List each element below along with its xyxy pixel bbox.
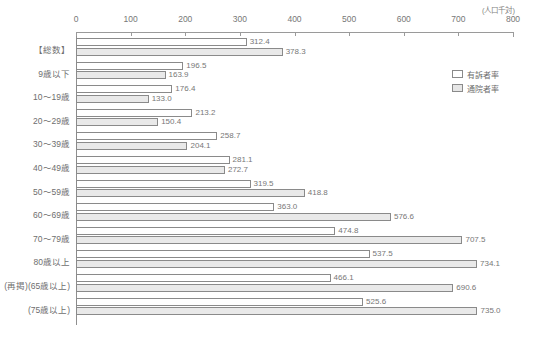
chart-legend: 有訴者率通院者率 <box>452 68 530 96</box>
bar-tsuinsha <box>76 284 453 292</box>
bar-yusosha <box>76 156 230 164</box>
x-tick-label: 600 <box>397 14 411 24</box>
bar-value-label: 312.4 <box>250 38 270 46</box>
category-label: (再掲)(65歳以上) <box>0 279 70 291</box>
x-tick-label: 500 <box>342 14 356 24</box>
bar-value-label: 418.8 <box>308 189 328 197</box>
x-tick-label: 400 <box>287 14 301 24</box>
bar-tsuinsha <box>76 48 283 56</box>
category-label: (75歳以上) <box>0 303 70 315</box>
bar-value-label: 319.5 <box>254 180 274 188</box>
bar-value-label: 281.1 <box>233 156 253 164</box>
category-label: 30〜39歳 <box>0 137 70 149</box>
plot-area: 312.4378.3196.5163.9176.4133.0213.2150.4… <box>76 36 513 325</box>
bar-tsuinsha <box>76 71 166 79</box>
bar-yusosha <box>76 250 370 258</box>
bar-value-label: 525.6 <box>366 298 386 306</box>
bar-value-label: 163.9 <box>169 71 189 79</box>
category-label: 80歳以上 <box>0 255 70 267</box>
x-tick-mark <box>513 32 514 37</box>
bar-yusosha <box>76 62 183 70</box>
bar-yusosha <box>76 132 217 140</box>
legend-item[interactable]: 通院者率 <box>452 82 530 94</box>
bar-value-label: 735.0 <box>480 307 500 315</box>
x-tick-label: 0 <box>74 14 79 24</box>
category-label: 20〜29歳 <box>0 114 70 126</box>
bar-yusosha <box>76 203 274 211</box>
x-axis-tick-labels: 0100200300400500600700800 <box>76 14 513 34</box>
bar-yusosha <box>76 298 363 306</box>
bar-yusosha <box>76 274 331 282</box>
x-tick-label: 800 <box>506 14 520 24</box>
legend-label: 通院者率 <box>467 83 499 94</box>
bar-value-label: 176.4 <box>175 85 195 93</box>
x-tick-label: 100 <box>124 14 138 24</box>
bar-value-label: 150.4 <box>161 118 181 126</box>
bar-value-label: 707.5 <box>465 236 485 244</box>
category-label: 【総数】 <box>0 43 70 55</box>
bar-yusosha <box>76 180 251 188</box>
bar-value-label: 466.1 <box>334 274 354 282</box>
category-label: 10〜19歳 <box>0 90 70 102</box>
bar-tsuinsha <box>76 166 225 174</box>
x-tick-label: 300 <box>233 14 247 24</box>
bar-yusosha <box>76 85 172 93</box>
bar-tsuinsha <box>76 236 462 244</box>
bar-value-label: 734.1 <box>480 260 500 268</box>
bar-tsuinsha <box>76 260 477 268</box>
bar-tsuinsha <box>76 95 149 103</box>
bar-yusosha <box>76 227 335 235</box>
bar-value-label: 378.3 <box>286 48 306 56</box>
bar-value-label: 133.0 <box>152 95 172 103</box>
bar-value-label: 258.7 <box>220 132 240 140</box>
bar-yusosha <box>76 38 247 46</box>
category-label: 70〜79歳 <box>0 232 70 244</box>
legend-item[interactable]: 有訴者率 <box>452 68 530 80</box>
bar-tsuinsha <box>76 118 158 126</box>
x-tick-label: 700 <box>451 14 465 24</box>
bar-value-label: 576.6 <box>394 213 414 221</box>
category-label: 60〜69歳 <box>0 208 70 220</box>
bar-value-label: 272.7 <box>228 166 248 174</box>
bar-value-label: 474.8 <box>338 227 358 235</box>
bar-value-label: 363.0 <box>277 203 297 211</box>
bar-value-label: 196.5 <box>186 62 206 70</box>
bar-value-label: 537.5 <box>373 250 393 258</box>
bar-tsuinsha <box>76 142 187 150</box>
legend-label: 有訴者率 <box>467 69 499 80</box>
legend-swatch-icon <box>452 70 463 78</box>
bar-tsuinsha <box>76 189 305 197</box>
category-label: 40〜49歳 <box>0 161 70 173</box>
x-tick-label: 200 <box>178 14 192 24</box>
legend-swatch-icon <box>452 84 463 92</box>
bar-yusosha <box>76 109 192 117</box>
category-label: 9歳以下 <box>0 67 70 79</box>
bar-value-label: 690.6 <box>456 284 476 292</box>
bar-tsuinsha <box>76 307 477 315</box>
bar-tsuinsha <box>76 213 391 221</box>
bar-value-label: 204.1 <box>190 142 210 150</box>
bar-value-label: 213.2 <box>195 109 215 117</box>
category-label: 50〜59歳 <box>0 185 70 197</box>
bar-chart: (人口千対) 0100200300400500600700800 【総数】9歳以… <box>0 0 533 338</box>
